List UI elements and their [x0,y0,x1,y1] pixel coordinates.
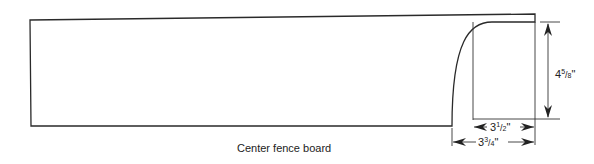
fence-board-diagram: 45/8" 31/2" 33/4" Center fence board [0,0,594,164]
flat-width-label: 31/2" [490,121,510,133]
board-outline [30,14,535,126]
diagram-caption: Center fence board [237,142,331,154]
total-width-label: 33/4" [478,136,498,148]
height-dimension-label: 45/8" [555,68,575,80]
